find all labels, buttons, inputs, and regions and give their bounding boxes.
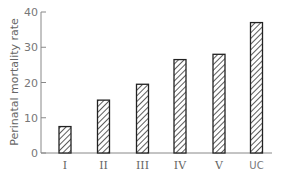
y-tick-label: 30 (24, 41, 38, 54)
x-tick-label: UC (249, 160, 263, 171)
y-tick-label: 40 (24, 6, 38, 19)
y-tick-label: 10 (24, 112, 38, 125)
x-tick-label: V (214, 159, 224, 172)
x-tick-label: II (99, 159, 108, 172)
bar-i (59, 127, 71, 153)
bar-chart: 010203040 IIIIIIIVVUC Perinatal mortalit… (0, 0, 283, 176)
bars (59, 23, 263, 153)
bar-uc (251, 23, 263, 153)
y-axis: 010203040 (24, 6, 46, 160)
x-tick-label: I (63, 159, 67, 172)
x-tick-label: IV (174, 159, 187, 172)
bar-iii (137, 84, 149, 153)
y-axis-label: Perinatal mortality rate (8, 18, 21, 146)
y-tick-label: 20 (24, 77, 38, 90)
bar-v (213, 54, 225, 153)
x-axis: IIIIIIIVVUC (41, 153, 272, 172)
x-tick-label: III (136, 159, 149, 172)
bar-ii (98, 100, 110, 153)
y-tick-label: 0 (31, 147, 38, 160)
bar-iv (174, 60, 186, 153)
